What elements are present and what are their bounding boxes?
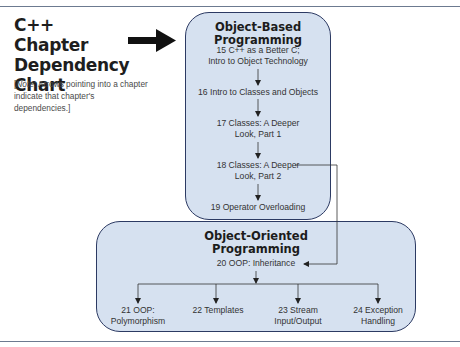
bottom-rule xyxy=(0,341,460,342)
chapter-20: 20 OOP: Inheritance xyxy=(196,258,316,269)
chapter-16: 16 Intro to Classes and Objects xyxy=(185,87,331,98)
chapter-17-line-1: 17 Classes: A Deeper xyxy=(185,118,331,129)
title-line-2: Dependency xyxy=(14,55,124,75)
top-rule xyxy=(0,6,460,7)
chapter-24-line-1: 24 Exception xyxy=(340,305,416,316)
chapter-21-line-2: Polymorphism xyxy=(100,316,176,327)
chapter-16-line-1: 16 Intro to Classes and Objects xyxy=(185,87,331,98)
chapter-15-line-1: 15 C++ as a Better C; xyxy=(185,45,331,56)
chapter-19-line-1: 19 Operator Overloading xyxy=(185,202,331,213)
chapter-24: 24 Exception Handling xyxy=(340,305,416,327)
chapter-18-line-2: Look, Part 2 xyxy=(185,171,331,182)
group-title-line-2: Programming xyxy=(97,243,415,256)
chapter-18-line-1: 18 Classes: A Deeper xyxy=(185,160,331,171)
chapter-19: 19 Operator Overloading xyxy=(185,202,331,213)
note-text: [Note: Arrows pointing into a chapter in… xyxy=(14,78,149,114)
chapter-17-line-2: Look, Part 1 xyxy=(185,129,331,140)
chapter-24-line-2: Handling xyxy=(340,316,416,327)
chapter-15: 15 C++ as a Better C; Intro to Object Te… xyxy=(185,45,331,67)
chapter-23-line-1: 23 Stream xyxy=(260,305,336,316)
chapter-17: 17 Classes: A Deeper Look, Part 1 xyxy=(185,118,331,140)
big-arrow-icon xyxy=(128,29,176,52)
chapter-22-line-1: 22 Templates xyxy=(180,305,256,316)
chapter-20-line-1: 20 OOP: Inheritance xyxy=(196,258,316,269)
chapter-23: 23 Stream Input/Output xyxy=(260,305,336,327)
chapter-15-line-2: Intro to Object Technology xyxy=(185,56,331,67)
chapter-23-line-2: Input/Output xyxy=(260,316,336,327)
chapter-21: 21 OOP: Polymorphism xyxy=(100,305,176,327)
title-line-1: C++ Chapter xyxy=(14,15,124,55)
group-title: Object-Oriented Programming xyxy=(97,230,415,256)
chapter-21-line-1: 21 OOP: xyxy=(100,305,176,316)
note-label: Note: xyxy=(16,79,36,89)
chapter-18: 18 Classes: A Deeper Look, Part 2 xyxy=(185,160,331,182)
chapter-22: 22 Templates xyxy=(180,305,256,316)
group-title: Object-Based Programming xyxy=(186,21,330,47)
group-object-based-programming: Object-Based Programming xyxy=(185,12,331,220)
